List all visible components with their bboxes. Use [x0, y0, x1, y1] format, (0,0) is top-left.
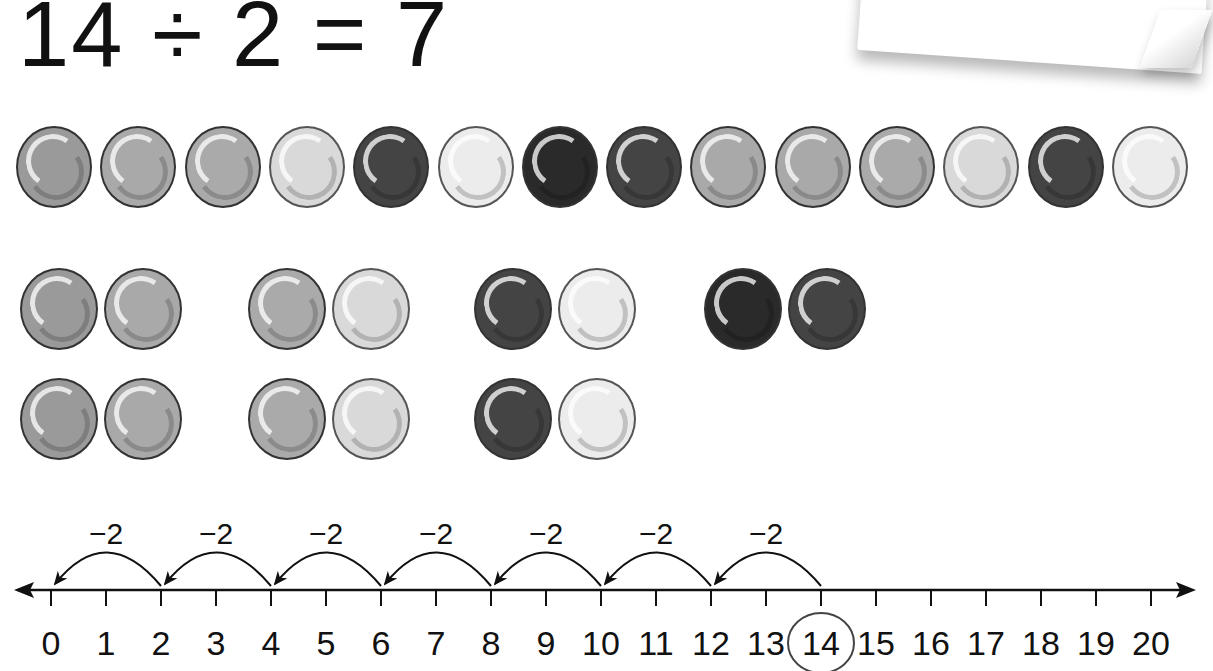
number-line: 01234567891011121314151617181920 −2−2−2−… [0, 500, 1210, 671]
bead [522, 126, 598, 208]
bead-pair-item [704, 268, 782, 350]
tick-label: 20 [1132, 624, 1170, 662]
bead-pair-item [104, 378, 182, 460]
jump-label: −2 [639, 517, 673, 550]
bead-pair-item [20, 268, 98, 350]
bead [269, 126, 345, 208]
tick-label: 12 [692, 624, 730, 662]
bead-pair-item [788, 268, 866, 350]
jump-arrow-icon [715, 552, 821, 586]
tick-label: 11 [638, 624, 673, 662]
jump-label: −2 [529, 517, 563, 550]
bead-pair-item [104, 268, 182, 350]
tick-label: 7 [427, 624, 446, 662]
bead-pair-item [332, 268, 410, 350]
tick-label: 13 [747, 624, 785, 662]
jump-arrow-icon [495, 552, 601, 586]
jump-label: −2 [419, 517, 453, 550]
tick-label: 15 [857, 624, 895, 662]
jump-arrow-icon [165, 552, 271, 586]
bead-pair-item [248, 378, 326, 460]
tick-label: 18 [1022, 624, 1060, 662]
equation-heading: 14 ÷ 2 = 7 [18, 0, 449, 80]
bead-pair-item [474, 378, 552, 460]
bead-pair-item [558, 378, 636, 460]
tick-label: 19 [1077, 624, 1115, 662]
tick-label: 3 [207, 624, 226, 662]
bead [100, 126, 176, 208]
jump-arrow-icon [275, 552, 381, 586]
tick-label: 8 [482, 624, 501, 662]
bead [943, 126, 1019, 208]
jump-label: −2 [749, 517, 783, 550]
tick-label: 6 [372, 624, 391, 662]
bead [1112, 126, 1188, 208]
tick-marks: 01234567891011121314151617181920 [42, 590, 1170, 662]
bead [775, 126, 851, 208]
bead-pair-item [332, 378, 410, 460]
bead-pair-item [558, 268, 636, 350]
tick-label: 14 [802, 624, 840, 662]
tick-label: 4 [262, 624, 281, 662]
bead [353, 126, 429, 208]
bead [185, 126, 261, 208]
tick-label: 16 [912, 624, 950, 662]
tick-label: 5 [317, 624, 336, 662]
tick-label: 17 [967, 624, 1005, 662]
tick-label: 2 [152, 624, 171, 662]
bead [606, 126, 682, 208]
bead-pair-item [474, 268, 552, 350]
jump-label: −2 [199, 517, 233, 550]
jump-label: −2 [89, 517, 123, 550]
jump-arrow-icon [385, 552, 491, 586]
tick-label: 10 [582, 624, 620, 662]
bead [1028, 126, 1104, 208]
tick-label: 1 [97, 624, 116, 662]
bead [859, 126, 935, 208]
jump-arrow-icon [55, 552, 161, 586]
jump-arcs: −2−2−2−2−2−2−2 [55, 517, 821, 586]
tick-label: 0 [42, 624, 61, 662]
jump-label: −2 [309, 517, 343, 550]
bead [16, 126, 92, 208]
tick-label: 9 [537, 624, 556, 662]
bead [438, 126, 514, 208]
bead-pair-item [248, 268, 326, 350]
bead [690, 126, 766, 208]
jump-arrow-icon [605, 552, 711, 586]
bead-pair-item [20, 378, 98, 460]
